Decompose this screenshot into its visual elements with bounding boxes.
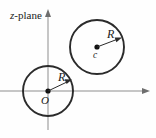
radius-label-right: R <box>106 27 115 41</box>
horizontal-axis-arrowhead-icon <box>142 88 150 94</box>
z-plane-figure: z-plane R O R c <box>0 0 156 138</box>
origin-label: O <box>41 94 49 106</box>
radius-label-left: R <box>57 70 66 84</box>
plane-label: z-plane <box>9 9 42 21</box>
circle-at-c <box>70 20 124 74</box>
center-label: c <box>93 50 98 60</box>
plane-label-suffix: -plane <box>14 9 42 21</box>
vertical-axis-arrowhead-icon <box>45 9 51 17</box>
vertical-axis <box>45 9 51 130</box>
c-radius-arrowhead-icon <box>115 37 122 42</box>
figure-canvas: z-plane R O R c <box>0 0 156 138</box>
